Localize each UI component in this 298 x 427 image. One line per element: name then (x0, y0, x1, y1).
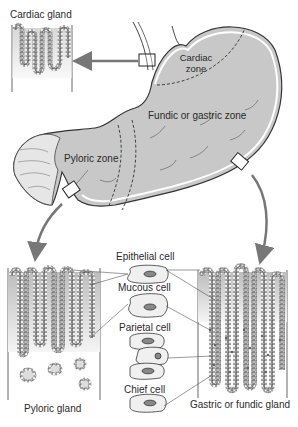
pyloric-zone-label: Pyloric zone (64, 154, 118, 164)
pyloric-gland-illustration (8, 268, 100, 400)
stomach-diagram (0, 0, 298, 427)
cardiac-gland-illustration (12, 25, 72, 92)
cardiac-zone-label-line2: zone (174, 63, 218, 74)
fundic-zone-label: Fundic or gastric zone (148, 111, 246, 121)
cardiac-zone-label-line1: Cardiac (174, 52, 218, 63)
gastric-gland-label: Gastric or fundic gland (190, 400, 290, 410)
cardiac-gland-label: Cardiac gland (10, 10, 72, 20)
fundic-arrow (252, 175, 267, 255)
pyloric-arrow (36, 204, 62, 252)
mucous-cell-label: Mucous cell (118, 283, 171, 293)
pyloric-gland-label: Pyloric gland (24, 404, 81, 414)
gastric-gland-illustration (198, 266, 287, 398)
epithelial-cell-label: Epithelial cell (116, 252, 174, 262)
cardiac-sample-box (139, 54, 155, 66)
cardiac-zone-label: Cardiac zone (174, 52, 218, 74)
parietal-cell-label: Parietal cell (119, 323, 171, 333)
chief-cell-label: Chief cell (124, 385, 165, 395)
